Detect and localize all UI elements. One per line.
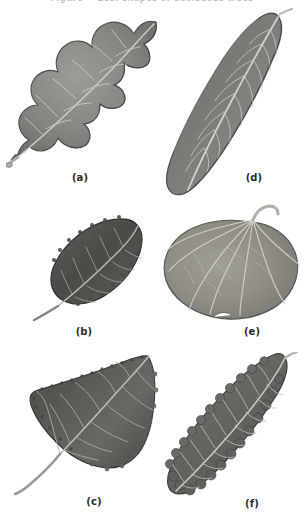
- figure-label-b: (b): [64, 326, 104, 337]
- figure-label-a: (a): [60, 172, 100, 183]
- figure-e-aspen-leaf: [158, 204, 302, 326]
- figure-f-chestnut-leaf: [156, 352, 302, 500]
- figure-c-cottonwood-leaf: [8, 350, 160, 496]
- figure-b-beech-leaf: [24, 212, 150, 324]
- leaf-figure-plate: Figure — Leaf shapes of deciduous trees: [0, 0, 304, 531]
- figure-d-lanceolate-leaf: [158, 8, 300, 208]
- figure-label-e: (e): [232, 326, 272, 337]
- cropped-top-caption-text: Figure — Leaf shapes of deciduous trees: [0, 0, 304, 3]
- cropped-top-caption: Figure — Leaf shapes of deciduous trees: [0, 0, 304, 7]
- figure-a-oak-leaf: [6, 8, 172, 180]
- figure-label-d: (d): [234, 172, 274, 183]
- figure-label-c: (c): [74, 496, 114, 507]
- figure-label-f: (f): [232, 498, 272, 509]
